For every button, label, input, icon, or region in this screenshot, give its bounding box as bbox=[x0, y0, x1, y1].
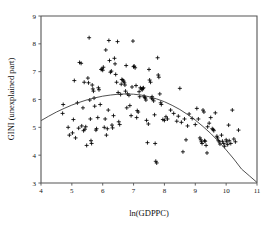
y-tick-label: 9 bbox=[33, 13, 37, 21]
chart-canvas: 4567891011 3456789 ln(GDPPC) GINI (unexp… bbox=[0, 0, 270, 227]
x-axis-title: ln(GDPPC) bbox=[129, 208, 169, 218]
y-axis-title: GINI (unexplained part) bbox=[6, 58, 16, 141]
x-tick-label: 7 bbox=[132, 187, 136, 195]
x-tick-label: 6 bbox=[101, 187, 105, 195]
y-tick-label: 7 bbox=[33, 68, 37, 76]
x-tick-label: 9 bbox=[194, 187, 198, 195]
x-tick-label: 11 bbox=[254, 187, 261, 195]
x-tick-label: 10 bbox=[223, 187, 231, 195]
x-tick-label: 4 bbox=[39, 187, 43, 195]
y-tick-label: 4 bbox=[33, 152, 37, 160]
y-tick-label: 3 bbox=[33, 180, 37, 188]
y-tick-label: 5 bbox=[33, 124, 37, 132]
y-tick-label: 6 bbox=[33, 96, 37, 104]
scatter-plot-figure: 4567891011 3456789 ln(GDPPC) GINI (unexp… bbox=[0, 0, 270, 227]
y-tick-label: 8 bbox=[33, 40, 37, 48]
x-tick-label: 5 bbox=[70, 187, 74, 195]
x-tick-label: 8 bbox=[163, 187, 167, 195]
